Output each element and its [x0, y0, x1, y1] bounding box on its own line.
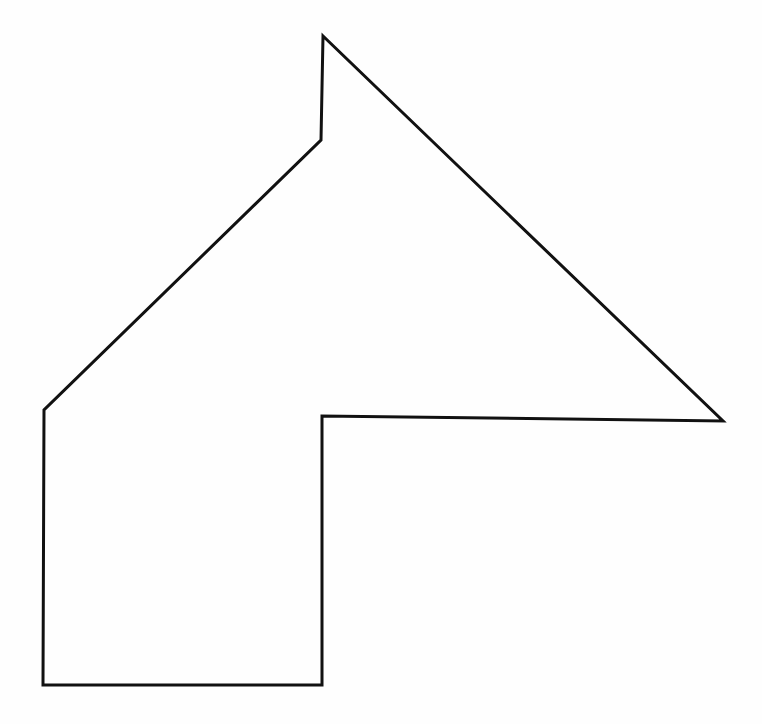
figure-canvas	[0, 0, 762, 724]
canvas-background	[0, 0, 762, 724]
shape-outline-figure	[0, 0, 762, 724]
